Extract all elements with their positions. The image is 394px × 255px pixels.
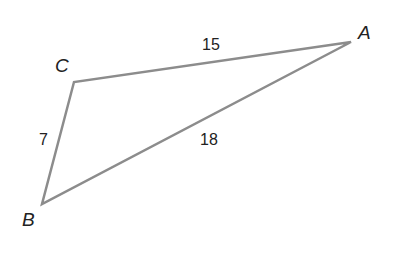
vertex-label-c: C [55,56,69,75]
side-length-cb: 7 [39,132,48,148]
triangle-shape [0,0,394,255]
vertex-label-b: B [22,210,35,229]
triangle-abc [42,42,351,204]
side-length-ab: 18 [200,132,218,148]
triangle-diagram: A C B 15 7 18 [0,0,394,255]
side-length-ca: 15 [202,37,220,53]
vertex-label-a: A [358,23,371,42]
